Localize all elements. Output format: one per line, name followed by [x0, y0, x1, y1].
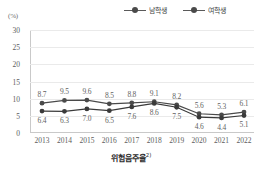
x-axis-tick-label: 2020	[192, 136, 207, 145]
data-point-marker[interactable]	[107, 108, 112, 113]
chart-container: (%) 남학생 여학생 302520151050 201320142015201…	[0, 0, 262, 170]
data-point-label: 7.5	[172, 112, 181, 121]
data-point-marker[interactable]	[197, 115, 202, 120]
data-point-label: 4.4	[217, 123, 226, 132]
x-axis-tick-label: 2013	[35, 136, 50, 145]
caption-text: 위험음주율	[111, 154, 146, 163]
data-point-marker[interactable]	[107, 101, 112, 106]
data-point-marker[interactable]	[129, 105, 134, 110]
data-point-marker[interactable]	[62, 109, 67, 114]
legend-item-female[interactable]: 여학생	[183, 5, 226, 15]
data-point-label: 6.5	[105, 116, 114, 125]
data-point-label: 9.6	[82, 87, 91, 96]
data-point-label: 9.5	[60, 87, 69, 96]
x-axis-tick-label: 2019	[169, 136, 184, 145]
data-point-marker[interactable]	[129, 100, 134, 105]
data-point-label: 7.6	[127, 112, 136, 121]
series-line-female	[42, 103, 244, 117]
plot-area: 302520151050 201320142015201620172018201…	[30, 30, 254, 133]
x-axis-tick-label: 2021	[214, 136, 229, 145]
x-axis-tick-label: 2017	[124, 136, 139, 145]
data-point-marker[interactable]	[152, 101, 157, 106]
y-axis-unit-label: (%)	[8, 12, 18, 20]
data-point-label: 8.5	[105, 91, 114, 100]
x-axis-tick-label: 2022	[237, 136, 252, 145]
data-point-marker[interactable]	[40, 101, 45, 106]
y-axis-tick-label: 30	[0, 26, 20, 35]
data-point-label: 5.6	[195, 101, 204, 110]
legend-marker-female-icon	[183, 6, 205, 14]
legend-label-female: 여학생	[208, 5, 226, 15]
data-point-label: 8.6	[150, 108, 159, 117]
y-axis-tick-label: 25	[0, 43, 20, 52]
chart-legend: 남학생 여학생	[124, 5, 226, 15]
data-point-label: 7.0	[82, 114, 91, 123]
data-point-marker[interactable]	[242, 113, 247, 118]
caption-footnote-marker: 2)	[146, 152, 152, 158]
y-axis-tick-label: 0	[0, 129, 20, 138]
data-point-marker[interactable]	[62, 98, 67, 103]
data-point-label: 8.7	[38, 90, 47, 99]
series-line-male	[42, 100, 244, 115]
y-axis-tick-label: 10	[0, 94, 20, 103]
x-axis-tick-label: 2018	[147, 136, 162, 145]
legend-marker-male-icon	[124, 6, 146, 14]
data-point-marker[interactable]	[174, 105, 179, 110]
data-point-label: 8.8	[127, 90, 136, 99]
data-point-label: 9.1	[150, 89, 159, 98]
legend-item-male[interactable]: 남학생	[124, 5, 167, 15]
x-axis-tick-label: 2015	[79, 136, 94, 145]
data-point-label: 4.6	[195, 122, 204, 131]
y-axis-tick-label: 15	[0, 77, 20, 86]
data-point-marker[interactable]	[84, 98, 89, 103]
data-point-label: 5.3	[217, 102, 226, 111]
data-point-label: 6.3	[60, 116, 69, 125]
data-point-label: 6.4	[38, 116, 47, 125]
chart-caption: 위험음주율2)	[0, 152, 262, 163]
data-point-label: 6.1	[240, 99, 249, 108]
legend-label-male: 남학생	[149, 5, 167, 15]
data-point-label: 5.1	[240, 120, 249, 129]
y-axis-tick-label: 5	[0, 111, 20, 120]
x-axis-tick-label: 2014	[57, 136, 72, 145]
data-point-marker[interactable]	[40, 109, 45, 114]
y-axis-tick-label: 20	[0, 60, 20, 69]
data-point-marker[interactable]	[84, 107, 89, 112]
x-axis-tick-label: 2016	[102, 136, 117, 145]
data-point-label: 8.2	[172, 92, 181, 101]
data-point-marker[interactable]	[219, 115, 224, 120]
